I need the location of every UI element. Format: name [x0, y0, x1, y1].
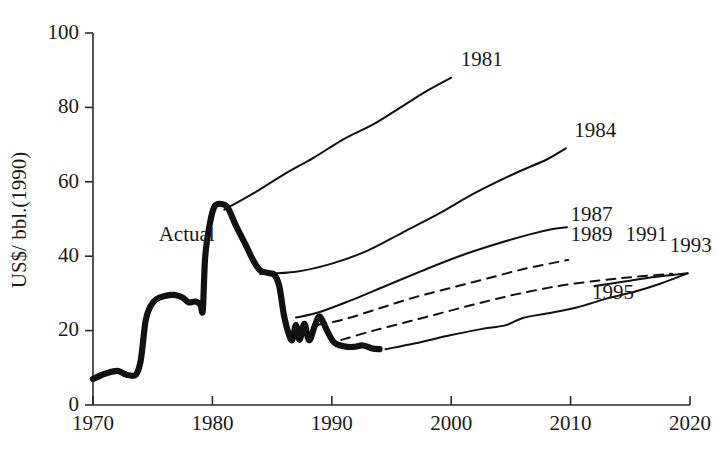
x-tick-label: 1980 [191, 411, 233, 435]
y-tick-label: 40 [58, 243, 79, 267]
x-tick-label: 2010 [550, 411, 592, 435]
oil-price-forecast-chart: 020406080100 197019801990200020102020 19… [0, 0, 726, 458]
y-axis: 020406080100 [48, 20, 94, 416]
y-tick-label: 100 [48, 20, 80, 44]
series-label-1993: 1993 [670, 233, 712, 257]
y-tick-label: 80 [58, 94, 79, 118]
chart-canvas: 020406080100 197019801990200020102020 19… [0, 0, 726, 458]
y-axis-title: US$/ bbl.(1990) [7, 152, 31, 289]
series-line-1995 [386, 273, 688, 349]
x-axis: 197019801990200020102020 [72, 396, 711, 435]
series-label-1984: 1984 [574, 118, 617, 142]
series-line-1987 [296, 227, 567, 317]
x-tick-label: 1970 [72, 411, 114, 435]
annotation-actual: Actual [159, 222, 215, 246]
series-label-1981: 1981 [461, 47, 503, 71]
x-tick-label: 2020 [669, 411, 711, 435]
series-label-1991: 1991 [626, 222, 668, 246]
y-tick-label: 60 [58, 169, 79, 193]
series-line-1981 [224, 78, 451, 210]
y-tick-label: 20 [58, 317, 79, 341]
x-tick-label: 1990 [311, 411, 353, 435]
series-label-1989: 1989 [571, 222, 613, 246]
annotations: Actual [159, 222, 215, 246]
series-line-Actual [93, 204, 380, 379]
series-line-1984 [260, 148, 566, 274]
x-tick-label: 2000 [430, 411, 472, 435]
series-labels: 1981198419871989199119931995 [461, 47, 712, 304]
series-label-1995: 1995 [592, 280, 634, 304]
